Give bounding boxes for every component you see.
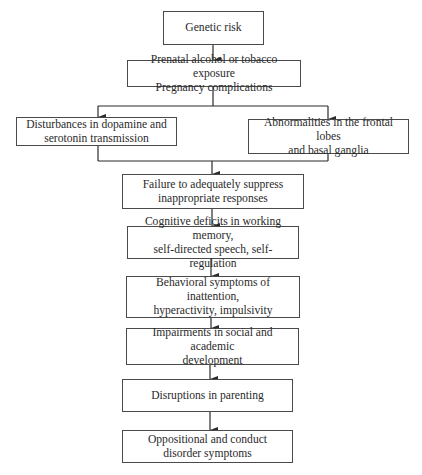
node-cognitive-deficits: Cognitive deficits in working memory, se… <box>127 226 299 259</box>
node-failure-suppress: Failure to adequately suppress inappropr… <box>122 174 304 209</box>
node-label: Genetic risk <box>185 21 241 35</box>
node-behavioral-symptoms: Behavioral symptoms of inattention, hype… <box>126 276 300 318</box>
node-dopamine-serotonin: Disturbances in dopamine and serotonin t… <box>16 117 177 146</box>
node-genetic-risk: Genetic risk <box>163 11 264 45</box>
node-label: Behavioral symptoms of inattention, hype… <box>131 276 295 318</box>
node-prenatal-exposure: Prenatal alcohol or tobacco exposure Pre… <box>127 60 301 87</box>
node-label: Disturbances in dopamine and serotonin t… <box>26 118 167 146</box>
node-disruptions-parenting: Disruptions in parenting <box>122 379 293 412</box>
node-label: Cognitive deficits in working memory, se… <box>132 215 294 271</box>
node-label: Prenatal alcohol or tobacco exposure Pre… <box>132 53 296 95</box>
node-impairments: Impairments in social and academic devel… <box>126 328 299 365</box>
node-frontal-lobes: Abnormalities in the frontal lobes and b… <box>248 119 409 154</box>
node-label: Abnormalities in the frontal lobes and b… <box>253 116 404 158</box>
node-label: Disruptions in parenting <box>151 389 264 403</box>
node-label: Impairments in social and academic devel… <box>131 326 294 368</box>
node-label: Failure to adequately suppress inappropr… <box>143 178 284 206</box>
node-oppositional-conduct: Oppositional and conduct disorder sympto… <box>122 430 293 463</box>
node-label: Oppositional and conduct disorder sympto… <box>148 433 267 461</box>
